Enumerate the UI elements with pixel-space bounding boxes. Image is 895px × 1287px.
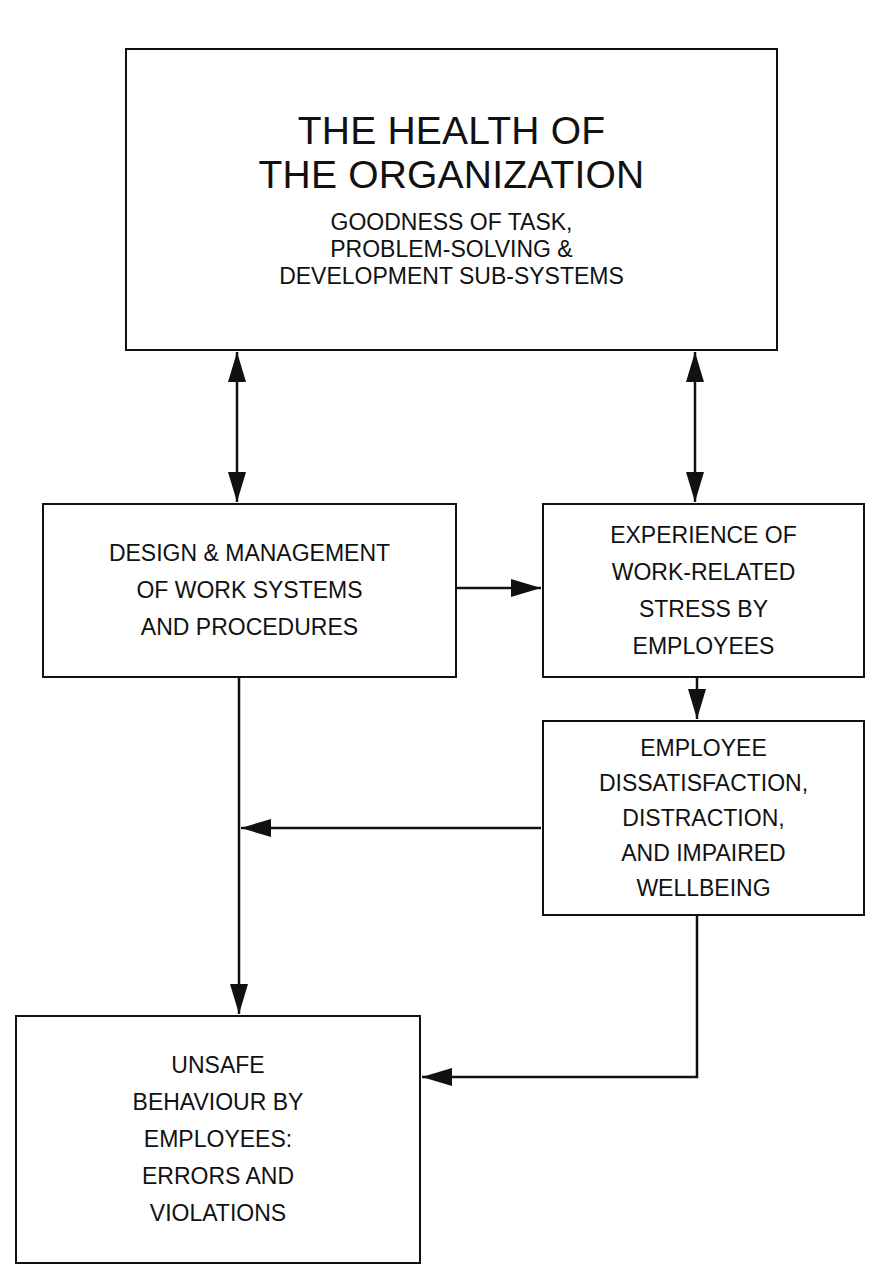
stress-line-1: EXPERIENCE OF bbox=[610, 517, 797, 554]
health-subtitle-line-1: GOODNESS OF TASK, bbox=[279, 209, 624, 236]
node-design-management: DESIGN & MANAGEMENT OF WORK SYSTEMS AND … bbox=[42, 503, 457, 678]
dissat-line-3: DISTRACTION, bbox=[622, 801, 784, 836]
health-subtitle: GOODNESS OF TASK, PROBLEM-SOLVING & DEVE… bbox=[279, 209, 624, 290]
health-subtitle-line-2: PROBLEM-SOLVING & bbox=[279, 236, 624, 263]
stress-line-4: EMPLOYEES bbox=[633, 628, 775, 665]
health-subtitle-line-3: DEVELOPMENT SUB-SYSTEMS bbox=[279, 263, 624, 290]
node-unsafe-behaviour: UNSAFE BEHAVIOUR BY EMPLOYEES: ERRORS AN… bbox=[15, 1015, 421, 1264]
dissat-line-2: DISSATISFACTION, bbox=[599, 766, 808, 801]
design-line-3: AND PROCEDURES bbox=[141, 609, 358, 646]
unsafe-line-1: UNSAFE bbox=[171, 1047, 264, 1084]
node-organization-health: THE HEALTH OF THE ORGANIZATION GOODNESS … bbox=[125, 48, 778, 351]
design-line-2: OF WORK SYSTEMS bbox=[136, 572, 362, 609]
figure-caption-clipped bbox=[8, 1280, 448, 1287]
unsafe-line-2: BEHAVIOUR BY bbox=[133, 1084, 304, 1121]
dissat-line-4: AND IMPAIRED bbox=[621, 836, 785, 871]
node-employee-dissatisfaction: EMPLOYEE DISSATISFACTION, DISTRACTION, A… bbox=[542, 720, 865, 916]
unsafe-line-5: VIOLATIONS bbox=[150, 1195, 286, 1232]
unsafe-line-4: ERRORS AND bbox=[142, 1158, 294, 1195]
stress-line-2: WORK-RELATED bbox=[612, 554, 796, 591]
health-title-line-1: THE HEALTH OF bbox=[298, 109, 605, 153]
dissat-line-1: EMPLOYEE bbox=[640, 731, 767, 766]
arrow-dissatisfaction-unsafe bbox=[422, 916, 697, 1077]
health-title-line-2: THE ORGANIZATION bbox=[259, 153, 645, 197]
stress-line-3: STRESS BY bbox=[639, 591, 768, 628]
design-line-1: DESIGN & MANAGEMENT bbox=[109, 535, 390, 572]
node-work-related-stress: EXPERIENCE OF WORK-RELATED STRESS BY EMP… bbox=[542, 503, 865, 678]
dissat-line-5: WELLBEING bbox=[636, 871, 770, 906]
unsafe-line-3: EMPLOYEES: bbox=[144, 1121, 292, 1158]
